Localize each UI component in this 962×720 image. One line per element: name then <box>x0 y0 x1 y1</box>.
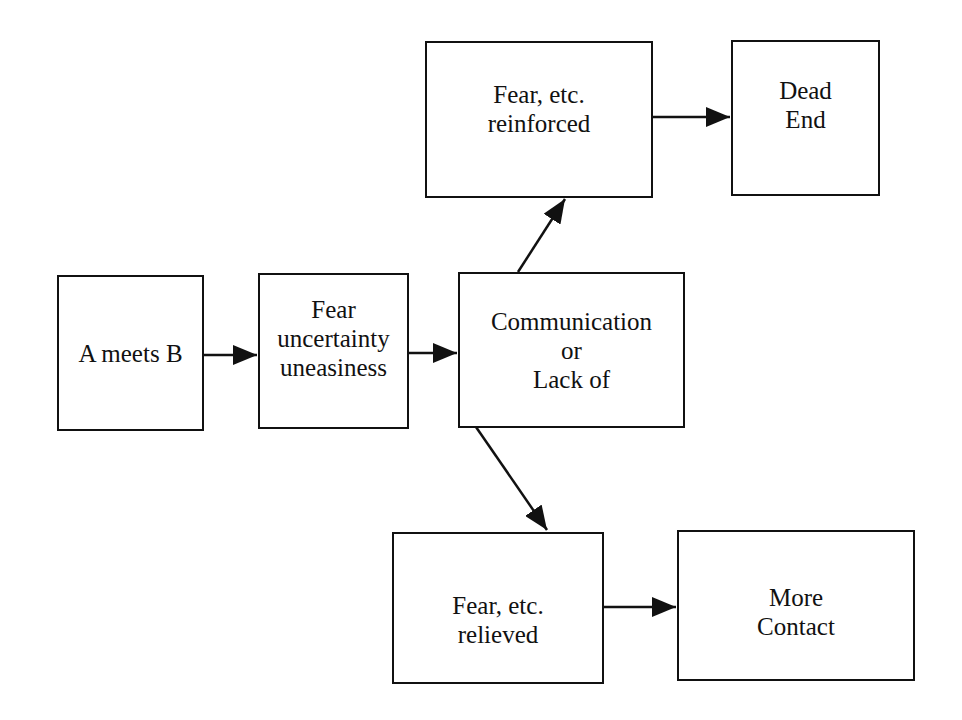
node-label: More <box>757 583 835 612</box>
node-label: reinforced <box>488 109 591 138</box>
node-label: uneasiness <box>277 353 389 382</box>
node-fear-reinforced: Fear, etc. reinforced <box>425 41 653 198</box>
node-label: A meets B <box>78 339 182 368</box>
node-label: Lack of <box>491 365 652 394</box>
node-label: End <box>779 105 832 134</box>
arrow-communication-to-reinforced <box>518 199 565 272</box>
node-label: Dead <box>779 76 832 105</box>
node-label: Fear <box>277 295 389 324</box>
node-fear-uncertainty: Fear uncertainty uneasiness <box>258 273 409 429</box>
node-label: Communication <box>491 307 652 336</box>
node-label: Fear, etc. <box>488 80 591 109</box>
node-communication: Communication or Lack of <box>458 272 685 428</box>
node-label: uncertainty <box>277 324 389 353</box>
arrow-communication-to-relieved <box>476 427 547 530</box>
node-a-meets-b: A meets B <box>57 275 204 431</box>
node-label: or <box>491 336 652 365</box>
node-dead-end: Dead End <box>731 40 880 196</box>
node-label: Contact <box>757 612 835 641</box>
node-label: relieved <box>452 620 543 649</box>
node-fear-relieved: Fear, etc. relieved <box>392 532 604 684</box>
node-more-contact: More Contact <box>677 530 915 681</box>
node-label: Fear, etc. <box>452 591 543 620</box>
